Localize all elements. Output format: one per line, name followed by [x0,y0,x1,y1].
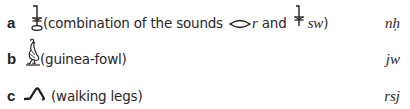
list-item-b: b (guinea-fowl) jw [0,47,410,71]
sw-plant-sign-icon [293,5,305,34]
list-item-a: a (combination of the sounds r and sw) n… [0,11,410,35]
item-description: (guinea-fowl) [40,47,127,71]
item-letter: c [7,84,15,108]
item-description: (combination of the sounds r and sw) [43,11,328,36]
conjunction: and [262,15,287,31]
item-letter: b [7,47,16,71]
sound-sw: sw [308,15,323,31]
description-prefix: (combination of the sounds [43,15,223,31]
description-suffix: ) [323,15,328,31]
item-description: (walking legs) [51,84,142,108]
list-item-c: c (walking legs) rsj [0,84,410,108]
item-letter: a [7,11,15,35]
mouth-sign-icon [229,12,251,36]
transliteration: nḥ [385,11,400,35]
walking-legs-sign-icon [24,86,46,106]
transliteration: rsj [384,84,400,108]
sound-r: r [252,15,258,31]
transliteration: jw [386,47,400,71]
